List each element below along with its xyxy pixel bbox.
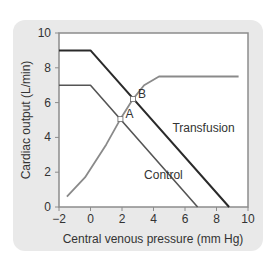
- y-tick-label: 6: [44, 96, 51, 110]
- x-tick-label: 4: [150, 212, 157, 226]
- x-tick-label: 10: [241, 212, 255, 226]
- x-tick-label: 6: [182, 212, 189, 226]
- y-tick-label: 10: [38, 26, 52, 40]
- point-a-label: A: [125, 107, 133, 121]
- point-b-marker: [131, 97, 136, 102]
- x-tick-label: 8: [213, 212, 220, 226]
- y-tick-label: 2: [44, 165, 51, 179]
- y-axis-label: Cardiac output (L/min): [19, 61, 33, 180]
- line-chart: −202468100246810 ABTransfusionControl Ce…: [0, 0, 276, 259]
- y-tick-label: 4: [44, 130, 51, 144]
- y-tick-label: 0: [44, 200, 51, 214]
- x-axis-label: Central venous pressure (mm Hg): [63, 232, 244, 246]
- point-a-marker: [118, 117, 123, 122]
- point-b-label: B: [138, 87, 146, 101]
- x-tick-label: 0: [87, 212, 94, 226]
- curve-label-control: Control: [144, 168, 183, 182]
- x-tick-label: 2: [119, 212, 126, 226]
- y-tick-label: 8: [44, 61, 51, 75]
- x-tick-label: −2: [52, 212, 66, 226]
- curve-label-transfusion: Transfusion: [172, 121, 234, 135]
